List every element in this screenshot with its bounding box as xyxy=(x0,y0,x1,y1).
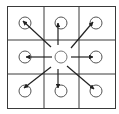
arrow-bottom-right xyxy=(67,66,94,89)
center-node xyxy=(55,51,67,63)
neighborhood-diagram xyxy=(0,0,119,114)
node-bottom xyxy=(55,85,67,97)
arrow-bottom-left xyxy=(24,67,51,88)
arrow-top-left xyxy=(23,21,51,47)
arrows xyxy=(23,21,94,89)
node-top xyxy=(55,17,67,29)
arrow-top-right xyxy=(71,22,93,48)
